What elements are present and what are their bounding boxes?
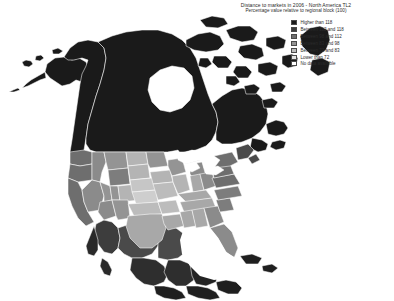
legend-label: Between 112 and 118 [300,27,344,32]
map-legend: Higher than 118Between 112 and 118Betwee… [291,20,344,68]
legend-swatch [291,27,297,32]
figure-subtitle: Percentage value relative to regional bl… [200,8,392,14]
legend-swatch [291,34,297,39]
legend-swatch [291,48,297,53]
legend-item: Between 72 and 83 [291,47,344,54]
legend-item: Between 112 and 118 [291,26,344,33]
legend-item: Higher than 118 [291,20,344,27]
map-region-canada [9,16,330,160]
legend-label: Higher than 118 [300,20,332,25]
legend-label: Between 98 and 112 [300,34,341,39]
figure-title-block: Distance to markets in 2006 - North Amer… [200,2,392,14]
legend-swatch [291,61,297,66]
legend-label: No data available [300,61,335,66]
map-caribbean-islands [240,254,278,273]
legend-label: Between 72 and 83 [300,48,339,53]
map-figure: Distance to markets in 2006 - North Amer… [0,0,394,301]
legend-label: Lower than 72 [300,55,329,60]
legend-label: Between 83 and 98 [300,41,339,46]
legend-swatch [291,41,297,46]
legend-item: Lower than 72 [291,54,344,61]
legend-swatch [291,20,297,25]
legend-swatch [291,55,297,60]
legend-item: Between 83 and 98 [291,40,344,47]
legend-item: Between 98 and 112 [291,33,344,40]
legend-item: No data available [291,61,344,68]
